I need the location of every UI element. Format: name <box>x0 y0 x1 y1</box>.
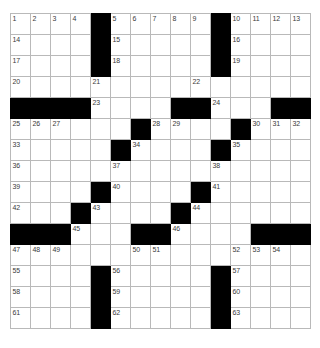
crossword-cell[interactable] <box>31 161 51 182</box>
crossword-cell[interactable] <box>171 56 191 77</box>
crossword-cell[interactable] <box>191 119 211 140</box>
crossword-cell[interactable] <box>151 161 171 182</box>
crossword-cell[interactable] <box>71 161 91 182</box>
crossword-cell[interactable] <box>251 287 271 308</box>
crossword-cell[interactable] <box>91 140 111 161</box>
crossword-cell[interactable] <box>291 308 311 329</box>
crossword-cell[interactable]: 40 <box>111 182 131 203</box>
crossword-cell[interactable] <box>171 308 191 329</box>
crossword-cell[interactable]: 61 <box>11 308 31 329</box>
crossword-cell[interactable] <box>191 287 211 308</box>
crossword-cell[interactable] <box>271 140 291 161</box>
crossword-cell[interactable] <box>271 56 291 77</box>
crossword-cell[interactable] <box>151 35 171 56</box>
crossword-cell[interactable] <box>51 77 71 98</box>
crossword-cell[interactable]: 15 <box>111 35 131 56</box>
crossword-cell[interactable] <box>131 308 151 329</box>
crossword-cell[interactable]: 53 <box>251 245 271 266</box>
crossword-cell[interactable] <box>271 287 291 308</box>
crossword-cell[interactable] <box>31 203 51 224</box>
crossword-cell[interactable]: 60 <box>231 287 251 308</box>
crossword-cell[interactable] <box>251 203 271 224</box>
crossword-cell[interactable] <box>191 224 211 245</box>
crossword-cell[interactable]: 38 <box>211 161 231 182</box>
crossword-cell[interactable]: 56 <box>111 266 131 287</box>
crossword-cell[interactable] <box>31 56 51 77</box>
crossword-cell[interactable] <box>231 98 251 119</box>
crossword-cell[interactable] <box>191 161 211 182</box>
crossword-cell[interactable]: 13 <box>291 14 311 35</box>
crossword-cell[interactable]: 34 <box>131 140 151 161</box>
crossword-cell[interactable] <box>91 224 111 245</box>
crossword-cell[interactable] <box>251 266 271 287</box>
crossword-cell[interactable]: 31 <box>271 119 291 140</box>
crossword-cell[interactable]: 44 <box>191 203 211 224</box>
crossword-cell[interactable] <box>231 203 251 224</box>
crossword-cell[interactable] <box>151 77 171 98</box>
crossword-cell[interactable]: 46 <box>171 224 191 245</box>
crossword-cell[interactable]: 50 <box>131 245 151 266</box>
crossword-cell[interactable] <box>151 287 171 308</box>
crossword-cell[interactable] <box>111 245 131 266</box>
crossword-cell[interactable] <box>211 224 231 245</box>
crossword-cell[interactable]: 43 <box>91 203 111 224</box>
crossword-cell[interactable] <box>171 35 191 56</box>
crossword-cell[interactable]: 29 <box>171 119 191 140</box>
crossword-cell[interactable]: 35 <box>231 140 251 161</box>
crossword-cell[interactable] <box>231 182 251 203</box>
crossword-cell[interactable] <box>291 161 311 182</box>
crossword-cell[interactable] <box>251 308 271 329</box>
crossword-cell[interactable] <box>291 182 311 203</box>
crossword-cell[interactable] <box>151 98 171 119</box>
crossword-cell[interactable] <box>131 35 151 56</box>
crossword-cell[interactable] <box>51 161 71 182</box>
crossword-cell[interactable]: 32 <box>291 119 311 140</box>
crossword-cell[interactable] <box>191 266 211 287</box>
crossword-cell[interactable] <box>71 308 91 329</box>
crossword-cell[interactable]: 52 <box>231 245 251 266</box>
crossword-cell[interactable] <box>251 182 271 203</box>
crossword-cell[interactable]: 5 <box>111 14 131 35</box>
crossword-cell[interactable] <box>191 245 211 266</box>
crossword-cell[interactable] <box>251 56 271 77</box>
crossword-cell[interactable]: 48 <box>31 245 51 266</box>
crossword-cell[interactable] <box>31 308 51 329</box>
crossword-cell[interactable]: 54 <box>271 245 291 266</box>
crossword-cell[interactable] <box>51 35 71 56</box>
crossword-cell[interactable]: 37 <box>111 161 131 182</box>
crossword-cell[interactable]: 22 <box>191 77 211 98</box>
crossword-cell[interactable] <box>71 56 91 77</box>
crossword-cell[interactable] <box>111 119 131 140</box>
crossword-cell[interactable] <box>211 119 231 140</box>
crossword-cell[interactable]: 25 <box>11 119 31 140</box>
crossword-cell[interactable] <box>71 140 91 161</box>
crossword-cell[interactable] <box>251 98 271 119</box>
crossword-cell[interactable] <box>211 203 231 224</box>
crossword-cell[interactable] <box>131 56 151 77</box>
crossword-cell[interactable] <box>171 287 191 308</box>
crossword-cell[interactable] <box>51 287 71 308</box>
crossword-cell[interactable] <box>71 77 91 98</box>
crossword-cell[interactable] <box>131 182 151 203</box>
crossword-cell[interactable] <box>231 161 251 182</box>
crossword-cell[interactable]: 14 <box>11 35 31 56</box>
crossword-cell[interactable] <box>271 182 291 203</box>
crossword-cell[interactable]: 45 <box>71 224 91 245</box>
crossword-cell[interactable]: 1 <box>11 14 31 35</box>
crossword-cell[interactable] <box>71 35 91 56</box>
crossword-cell[interactable] <box>151 308 171 329</box>
crossword-cell[interactable] <box>191 35 211 56</box>
crossword-cell[interactable]: 16 <box>231 35 251 56</box>
crossword-cell[interactable] <box>71 245 91 266</box>
crossword-cell[interactable]: 6 <box>131 14 151 35</box>
crossword-cell[interactable]: 9 <box>191 14 211 35</box>
crossword-cell[interactable]: 33 <box>11 140 31 161</box>
crossword-cell[interactable] <box>51 308 71 329</box>
crossword-cell[interactable] <box>291 266 311 287</box>
crossword-cell[interactable] <box>251 77 271 98</box>
crossword-cell[interactable] <box>111 224 131 245</box>
crossword-cell[interactable] <box>31 77 51 98</box>
crossword-cell[interactable] <box>151 266 171 287</box>
crossword-cell[interactable]: 18 <box>111 56 131 77</box>
crossword-cell[interactable] <box>291 77 311 98</box>
